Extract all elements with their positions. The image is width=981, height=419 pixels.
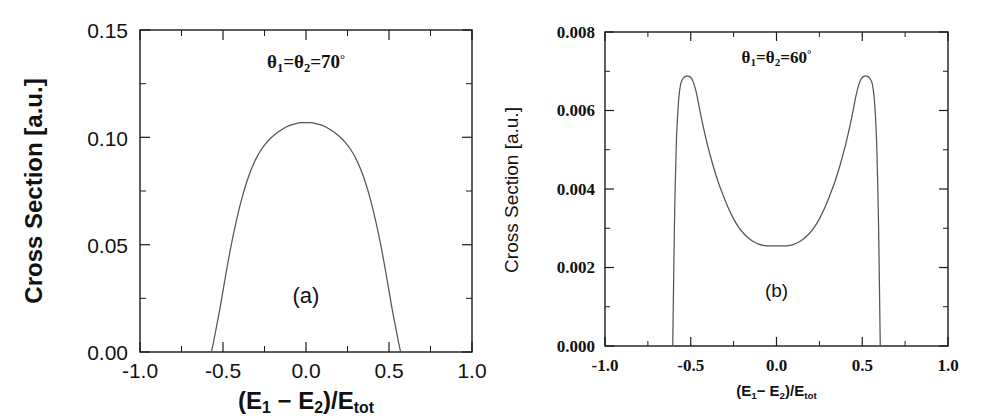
- panel-a-xtick-0.0: 0.0: [291, 359, 320, 382]
- figure-root: Cross Section [a.u.] 0.15 0.10 0.05 0.00…: [0, 0, 981, 419]
- panel-a-yticks-minor: [140, 84, 472, 299]
- panel-b-xlabel: (E1− E2)/Etot: [736, 382, 817, 401]
- panel-b-ytick-0.008: 0.008: [557, 23, 595, 42]
- panel-b-ytick-0.004: 0.004: [557, 180, 596, 199]
- panel-b-xtick--0.5: -0.5: [677, 356, 704, 375]
- panel-b-yticks-minor: [605, 71, 948, 307]
- panel-b-xtick-1.0: 1.0: [937, 356, 958, 375]
- panel-a-data-curve: [211, 123, 400, 352]
- panel-a-ylabel: Cross Section [a.u.]: [20, 78, 47, 303]
- panel-a-label: (a): [293, 283, 320, 308]
- chart-panel-a: Cross Section [a.u.] 0.15 0.10 0.05 0.00…: [0, 0, 490, 419]
- panel-b-label: (b): [765, 280, 788, 301]
- panel-b-annotation: θ1=θ2=60°: [742, 48, 812, 68]
- panel-b-ytick-0.000: 0.000: [557, 337, 595, 356]
- panel-b-xtick-0.0: 0.0: [766, 356, 787, 375]
- panel-a-ytick-0.05: 0.05: [87, 234, 128, 257]
- panel-b-ylabel: Cross Section [a.u.]: [501, 107, 522, 273]
- panel-a-ytick-0.15: 0.15: [87, 19, 128, 42]
- chart-panel-b: Cross Section [a.u.] 0.008 0.006 0.004 0…: [490, 0, 981, 419]
- panel-b-ytick-0.002: 0.002: [557, 258, 595, 277]
- panel-a-xtick-1.0: 1.0: [457, 359, 486, 382]
- panel-a-svg: Cross Section [a.u.] 0.15 0.10 0.05 0.00…: [0, 0, 490, 419]
- panel-b-svg: Cross Section [a.u.] 0.008 0.006 0.004 0…: [490, 0, 981, 419]
- panel-b-data-curve: [673, 76, 881, 346]
- panel-a-xlabel: (E1 − E2)/Etot: [238, 387, 375, 416]
- panel-b-xtick--1.0: -1.0: [592, 356, 619, 375]
- panel-a-xtick-0.5: 0.5: [374, 359, 403, 382]
- panel-a-ytick-0.10: 0.10: [87, 127, 128, 150]
- panel-b-xtick-0.5: 0.5: [852, 356, 873, 375]
- panel-a-xtick--1.0: -1.0: [122, 359, 158, 382]
- panel-a-xtick--0.5: -0.5: [205, 359, 241, 382]
- panel-a-annotation: θ1=θ2=70°: [267, 51, 345, 75]
- panel-b-ytick-0.006: 0.006: [557, 101, 595, 120]
